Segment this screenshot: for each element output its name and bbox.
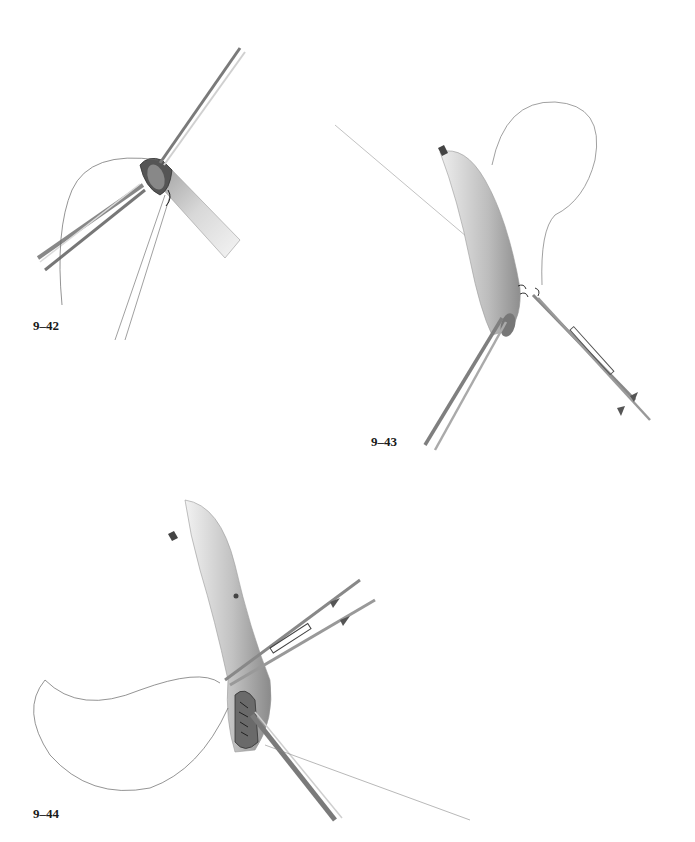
figure-9-43: 9–43 — [330, 90, 670, 460]
illustration-9-42 — [0, 0, 300, 350]
figure-9-42: 9–42 — [0, 0, 300, 350]
illustration-9-44 — [30, 480, 470, 830]
figure-9-44: 9–44 — [30, 480, 470, 830]
illustration-9-43 — [330, 90, 670, 460]
figure-label: 9–42 — [33, 318, 59, 334]
figure-label: 9–43 — [371, 434, 397, 450]
figure-label: 9–44 — [33, 806, 59, 822]
